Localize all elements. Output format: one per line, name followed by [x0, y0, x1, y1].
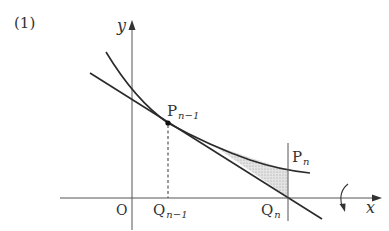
y-axis-label: y: [117, 18, 126, 34]
label-q-n: Qn: [261, 203, 281, 218]
label-p-prev: Pn−1: [167, 104, 199, 119]
label-p-n-sub: n: [303, 156, 309, 167]
curve: [106, 52, 310, 173]
origin-label: O: [116, 203, 127, 217]
label-q-prev-sub: n−1: [166, 209, 187, 220]
label-q-n-base: Q: [261, 201, 273, 219]
figure-number: (1): [14, 16, 35, 31]
rotation-arrow-icon: [341, 184, 348, 206]
y-axis-arrow-icon: [129, 20, 136, 30]
rotation-arrowhead-icon: [340, 204, 346, 213]
label-p-prev-base: P: [167, 102, 177, 120]
label-p-prev-sub: n−1: [178, 110, 199, 121]
label-p-n-base: P: [292, 148, 302, 166]
x-axis-label: x: [366, 200, 375, 216]
label-p-n: Pn: [292, 150, 310, 165]
shaded-region: [213, 145, 288, 197]
label-q-prev-base: Q: [153, 201, 165, 219]
point-p-prev: [165, 120, 170, 125]
label-q-prev: Qn−1: [153, 203, 188, 218]
tangent-line: [90, 73, 322, 219]
label-q-n-sub: n: [274, 209, 280, 220]
